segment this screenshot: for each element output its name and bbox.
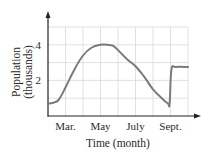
x-axis-arrow-icon xyxy=(194,114,201,119)
y-axis-title-line-2: (thousands) xyxy=(22,45,35,99)
x-tick-label: May xyxy=(90,120,111,132)
population-line-chart: 24 Mar.MayJulySept. Time (month) Populat… xyxy=(0,0,214,154)
y-tick-labels: 24 xyxy=(36,39,42,87)
y-axis-title: Population (thousands) xyxy=(10,45,35,99)
x-tick-label: Sept. xyxy=(159,120,182,132)
y-tick-label: 4 xyxy=(36,39,42,51)
y-tick-label: 2 xyxy=(36,74,42,86)
x-tick-label: July xyxy=(126,120,145,132)
y-axis-arrow-icon xyxy=(46,11,51,18)
x-tick-label: Mar. xyxy=(55,120,76,132)
x-axis-title: Time (month) xyxy=(86,137,150,150)
x-tick-labels: Mar.MayJulySept. xyxy=(55,120,182,132)
